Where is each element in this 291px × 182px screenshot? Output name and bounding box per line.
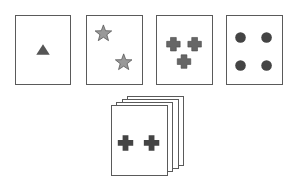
key-card-1-triangle[interactable] (15, 15, 71, 85)
circle-icon (235, 32, 246, 43)
circle-icon (261, 60, 272, 71)
star-icon (115, 54, 132, 70)
deck-top-card-crosses[interactable] (111, 105, 168, 176)
key-card-2-stars[interactable] (86, 15, 143, 85)
circle-icon (235, 60, 246, 71)
circle-icon (261, 32, 272, 43)
crosses-group (112, 106, 167, 175)
star-icon (95, 25, 112, 41)
crosses-group (157, 16, 212, 84)
cross-icon (118, 135, 133, 150)
cross-icon (144, 135, 159, 150)
cross-icon (188, 37, 202, 51)
cross-icon (167, 37, 181, 51)
triangle-icon (16, 16, 70, 84)
circles-group (227, 16, 282, 84)
key-card-3-crosses[interactable] (156, 15, 213, 85)
key-card-4-circles[interactable] (226, 15, 283, 85)
stars-group (87, 16, 142, 84)
cross-icon (177, 55, 191, 69)
